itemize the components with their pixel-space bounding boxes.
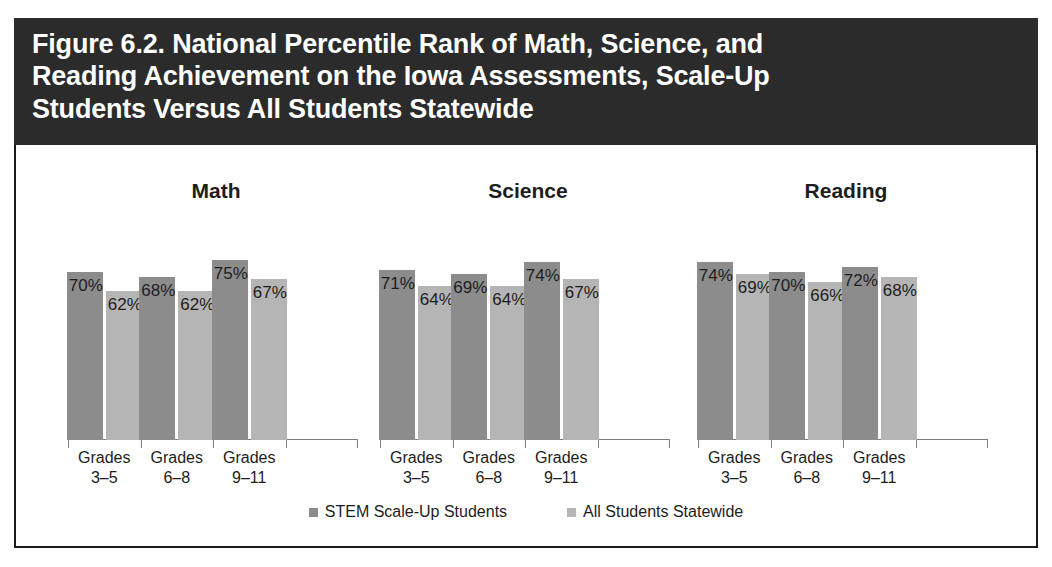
x-axis-tick (771, 440, 772, 448)
bar-value-label: 67% (565, 283, 599, 303)
bar[interactable] (251, 279, 287, 440)
x-axis-tick (698, 440, 699, 448)
x-axis-category-label: Grades 3–5 (68, 448, 141, 488)
panel-title: Math (68, 179, 364, 203)
bar-value-label: 70% (69, 276, 103, 296)
bar-value-label: 68% (141, 281, 175, 301)
bar[interactable] (842, 267, 878, 440)
bar-group: 72%68% (842, 225, 917, 440)
bar-value-label: 64% (420, 290, 454, 310)
bar-slot: 74% (524, 225, 560, 440)
bar-value-label: 74% (526, 266, 560, 286)
x-axis-tick (987, 440, 988, 448)
bar[interactable] (881, 277, 917, 440)
x-axis-category-label: Grades 6–8 (141, 448, 214, 488)
bar[interactable] (563, 279, 599, 440)
bar-value-label: 62% (108, 295, 142, 315)
panel-title: Reading (698, 179, 994, 203)
bar-group: 70%62% (67, 225, 142, 440)
x-axis-tick (213, 440, 214, 448)
bar-slot: 69% (451, 225, 487, 440)
bar-group: 71%64% (379, 225, 454, 440)
bar[interactable] (769, 272, 805, 440)
bar-slot: 68% (881, 225, 917, 440)
x-axis-tick (916, 440, 917, 448)
bar-slot: 70% (769, 225, 805, 440)
panel-plot-area: 71%64%69%64%74%67% (380, 225, 676, 440)
x-axis-tick (525, 440, 526, 448)
bar-value-label: 69% (738, 278, 772, 298)
figure-title: Figure 6.2. National Percentile Rank of … (32, 28, 1020, 125)
bar-value-label: 72% (844, 271, 878, 291)
chart-panel-science: ScienceGrades 3–5Grades 6–8Grades 9–1171… (380, 145, 676, 495)
bar-value-label: 74% (699, 266, 733, 286)
x-axis-category-label: Grades 6–8 (771, 448, 844, 488)
x-axis-category-label: Grades 3–5 (380, 448, 453, 488)
bar[interactable] (67, 272, 103, 440)
bar-value-label: 71% (381, 274, 415, 294)
chart-body: MathGrades 3–5Grades 6–8Grades 9–1170%62… (16, 145, 1036, 546)
legend-swatch-icon (567, 508, 576, 517)
legend-item[interactable]: STEM Scale-Up Students (309, 503, 507, 521)
bar-slot: 75% (212, 225, 248, 440)
x-axis-tick (598, 440, 599, 448)
x-axis-tick (453, 440, 454, 448)
bar-slot: 68% (139, 225, 175, 440)
bar-slot: 64% (418, 225, 454, 440)
figure-title-banner: Figure 6.2. National Percentile Rank of … (14, 18, 1038, 145)
chart-panel-math: MathGrades 3–5Grades 6–8Grades 9–1170%62… (68, 145, 364, 495)
bar-group: 75%67% (212, 225, 287, 440)
chart-legend: STEM Scale-Up StudentsAll Students State… (16, 503, 1036, 521)
bar[interactable] (379, 270, 415, 440)
bar[interactable] (212, 260, 248, 440)
legend-item[interactable]: All Students Statewide (567, 503, 743, 521)
x-axis-tick (843, 440, 844, 448)
bar[interactable] (736, 274, 772, 440)
bar-value-label: 62% (180, 295, 214, 315)
bar-slot: 74% (697, 225, 733, 440)
bar-slot: 67% (563, 225, 599, 440)
x-axis-category-label: Grades 6–8 (453, 448, 526, 488)
bar-value-label: 70% (771, 276, 805, 296)
bar-slot: 67% (251, 225, 287, 440)
figure-container: Figure 6.2. National Percentile Rank of … (0, 0, 1052, 567)
x-axis-category-label: Grades 3–5 (698, 448, 771, 488)
x-axis-category-label: Grades 9–11 (213, 448, 286, 488)
bar-slot: 64% (490, 225, 526, 440)
legend-label: All Students Statewide (583, 503, 743, 521)
bar-group: 74%69% (697, 225, 772, 440)
panel-plot-area: 70%62%68%62%75%67% (68, 225, 364, 440)
panel-title: Science (380, 179, 676, 203)
bar-slot: 62% (106, 225, 142, 440)
panel-plot-area: 74%69%70%66%72%68% (698, 225, 994, 440)
bar-slot: 66% (808, 225, 844, 440)
x-axis-tick (286, 440, 287, 448)
bar-value-label: 64% (492, 290, 526, 310)
bar[interactable] (139, 277, 175, 440)
bar[interactable] (451, 274, 487, 440)
x-axis-tick (357, 440, 358, 448)
bar-value-label: 67% (253, 283, 287, 303)
bar-group: 70%66% (769, 225, 844, 440)
x-axis-category-label: Grades 9–11 (525, 448, 598, 488)
bar-value-label: 66% (810, 286, 844, 306)
bar-group: 74%67% (524, 225, 599, 440)
bar[interactable] (697, 262, 733, 440)
bar-group: 69%64% (451, 225, 526, 440)
bar[interactable] (524, 262, 560, 440)
legend-label: STEM Scale-Up Students (325, 503, 507, 521)
bar-slot: 70% (67, 225, 103, 440)
bar-slot: 71% (379, 225, 415, 440)
legend-swatch-icon (309, 508, 318, 517)
x-axis-tick (141, 440, 142, 448)
x-axis-category-label: Grades 9–11 (843, 448, 916, 488)
bar-slot: 72% (842, 225, 878, 440)
chart-panel-reading: ReadingGrades 3–5Grades 6–8Grades 9–1174… (698, 145, 994, 495)
bar-value-label: 69% (453, 278, 487, 298)
x-axis-tick (68, 440, 69, 448)
bar-value-label: 68% (883, 281, 917, 301)
bar-group: 68%62% (139, 225, 214, 440)
bar-slot: 62% (178, 225, 214, 440)
bar-slot: 69% (736, 225, 772, 440)
x-axis-tick (669, 440, 670, 448)
